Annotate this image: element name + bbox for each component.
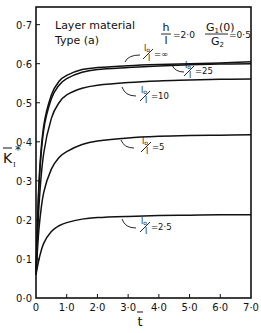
x-tick-label: 0 — [33, 302, 39, 313]
y-tick-label: 0·3 — [16, 176, 32, 187]
label-leaders: lol=∞lol=25lol=10lol=5lol=2·5 — [121, 44, 213, 236]
x-axis-ticks: 01·02·03·04·05·06·07·0 — [33, 294, 259, 313]
y-axis-label: K I * — [3, 143, 21, 169]
curve-label: lol=∞ — [125, 44, 168, 63]
g-value: =0·5 — [229, 30, 251, 40]
svg-text:l: l — [145, 96, 147, 105]
svg-text:=25: =25 — [195, 66, 213, 76]
series-curve — [36, 135, 251, 275]
svg-text:K: K — [3, 150, 13, 166]
svg-text:l: l — [146, 147, 148, 156]
svg-text:lo: lo — [185, 61, 191, 70]
svg-text:lo: lo — [141, 86, 147, 95]
y-tick-label: 0·1 — [16, 254, 32, 265]
series-curve — [36, 64, 251, 275]
series-curve — [36, 79, 251, 275]
y-tick-label: 0·2 — [16, 215, 32, 226]
g-denominator: G2 — [211, 35, 224, 49]
h-over-l-annotation: h l =2·0 — [161, 21, 195, 47]
x-tick-label: 4·0 — [151, 302, 167, 313]
svg-text:=∞: =∞ — [154, 49, 168, 59]
x-tick-label: 2·0 — [89, 302, 105, 313]
svg-text:=5: =5 — [152, 142, 165, 152]
annotation-type: Type (a) — [54, 34, 99, 47]
h-value: =2·0 — [173, 30, 195, 40]
svg-text:lo: lo — [144, 44, 150, 53]
h-numerator: h — [163, 21, 170, 34]
x-tick-label: 7·0 — [243, 302, 259, 313]
h-denominator: l — [164, 34, 167, 47]
curve-label: lol=5 — [121, 137, 165, 156]
g-ratio-annotation: G1(0) G2 =0·5 — [205, 21, 251, 49]
y-tick-label: 0·6 — [16, 59, 32, 70]
curve-label: lol=2·5 — [122, 217, 172, 236]
x-axis-label: t — [137, 312, 143, 329]
svg-text:=2·5: =2·5 — [151, 222, 172, 232]
svg-text:l: l — [189, 71, 191, 80]
svg-text:I: I — [13, 161, 16, 169]
x-tick-label: 1·0 — [59, 302, 75, 313]
chart: 0·00·10·20·30·40·50·60·7 01·02·03·04·05·… — [0, 0, 261, 333]
svg-text:lo: lo — [141, 217, 147, 226]
x-tick-label: 5·0 — [182, 302, 198, 313]
svg-text:t: t — [137, 314, 142, 329]
y-tick-label: 0·7 — [16, 20, 32, 31]
x-tick-label: 6·0 — [212, 302, 228, 313]
annotation-material: Layer material — [55, 19, 135, 32]
svg-text:=10: =10 — [151, 91, 169, 101]
y-tick-label: 0·0 — [16, 293, 32, 304]
svg-text:l: l — [148, 54, 150, 63]
y-tick-label: 0·5 — [16, 98, 32, 109]
curve-label: lol=10 — [122, 86, 169, 105]
x-tick-label: 3·0 — [120, 302, 136, 313]
svg-text:*: * — [15, 143, 21, 157]
svg-text:l: l — [145, 227, 147, 236]
svg-text:lo: lo — [142, 137, 148, 146]
